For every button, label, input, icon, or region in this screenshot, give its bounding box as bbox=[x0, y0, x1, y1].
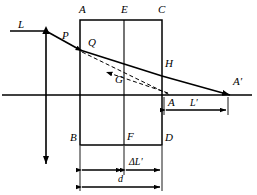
label-point-e: E bbox=[121, 4, 128, 15]
optical-ray-diagram: L P Q A E C H G A′ A B F D L′ d ΔL′ d bbox=[0, 0, 257, 195]
label-point-p: P bbox=[62, 30, 69, 41]
label-dim-l-prime: L′ bbox=[190, 98, 198, 108]
label-image-point: A′ bbox=[233, 76, 242, 87]
label-corner-a-top: A bbox=[79, 4, 86, 15]
label-point-g: G bbox=[115, 74, 123, 85]
label-incident-ray: L bbox=[18, 19, 24, 30]
label-dim-delta-l-prime: ΔL′ bbox=[129, 157, 143, 167]
emergent-ray bbox=[162, 76, 230, 95]
label-point-q: Q bbox=[88, 37, 96, 48]
label-corner-c: C bbox=[158, 4, 165, 15]
label-corner-d: D bbox=[165, 132, 173, 143]
label-point-h: H bbox=[165, 58, 173, 69]
label-dim-d-total: d bbox=[118, 174, 123, 184]
label-point-f: F bbox=[127, 131, 134, 142]
label-corner-b: B bbox=[70, 132, 77, 143]
label-axis-point-a: A bbox=[168, 97, 175, 108]
